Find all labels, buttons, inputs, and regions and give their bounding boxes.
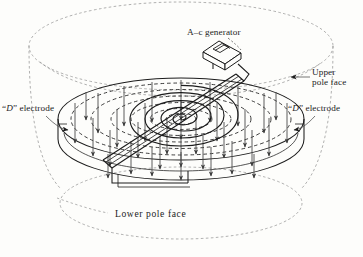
cyclotron-figure: A–c generator Upper pole face “D” electr… [0, 0, 363, 257]
ac-generator [203, 41, 241, 70]
upper-pole-face-ellipse [29, 2, 333, 90]
label-d-electrode-left: “D” electrode [2, 104, 54, 114]
label-d-electrode-left-word: electrode [17, 103, 54, 113]
leader-lower-pole-face [57, 198, 108, 213]
label-ac-generator: A–c generator [187, 28, 241, 38]
dee-gap-stripe-a [106, 76, 239, 162]
label-upper-pole-face: Upper pole face [312, 68, 346, 87]
cylinder-left-wall [29, 46, 60, 188]
particle-spiral-trajectory [130, 85, 238, 146]
label-upper-pole-face-line2: pole face [312, 78, 346, 88]
magnetic-field-lines [75, 80, 287, 180]
label-d-electrode-right-letter: D [292, 103, 299, 113]
spiral-path [130, 85, 238, 146]
label-lower-pole-face: Lower pole face [115, 209, 186, 219]
dee-gap-line-back [103, 74, 236, 160]
label-d-electrode-left-letter: D [6, 103, 13, 113]
label-d-electrode-right: “D” electrode [288, 104, 340, 114]
label-upper-pole-face-line1: Upper [312, 67, 335, 77]
lead-to-generator-lower [238, 64, 249, 81]
leader-d-electrode-left [46, 116, 68, 130]
label-d-electrode-right-word: electrode [303, 103, 340, 113]
